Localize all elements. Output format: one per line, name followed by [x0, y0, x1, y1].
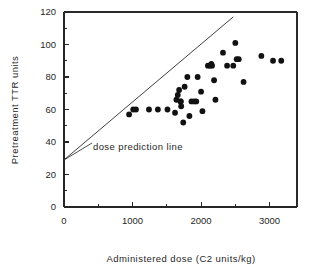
data-point — [258, 53, 264, 59]
data-point — [213, 97, 219, 103]
dose-prediction-line — [64, 17, 233, 160]
y-tick-label: 60 — [45, 104, 56, 115]
data-point — [146, 107, 152, 113]
x-axis-tick-labels: 0100020003000 — [61, 215, 280, 226]
data-point — [193, 98, 199, 104]
data-point — [184, 74, 190, 80]
y-tick-label: 0 — [51, 201, 56, 212]
data-point — [220, 50, 226, 56]
data-point — [180, 120, 186, 126]
data-point — [178, 103, 184, 109]
x-tick-label: 1000 — [122, 215, 143, 226]
scatter-plot-figure: 020406080100120 0100020003000 dose predi… — [0, 0, 316, 274]
data-point — [187, 113, 193, 119]
data-point — [236, 56, 242, 62]
annotation-group: dose prediction line — [64, 141, 183, 160]
y-axis-title: Pretreatment TTR units — [9, 56, 20, 164]
data-point — [126, 111, 132, 117]
data-point — [230, 63, 236, 69]
y-tick-label: 80 — [45, 71, 56, 82]
data-point — [241, 79, 247, 85]
data-point — [165, 107, 171, 113]
data-point — [198, 89, 204, 95]
x-tick-label: 2000 — [190, 215, 211, 226]
x-axis-title: Administered dose (C2 units/kg) — [106, 253, 255, 264]
data-point — [224, 63, 230, 69]
y-tick-label: 20 — [45, 169, 56, 180]
data-point — [278, 58, 284, 64]
data-point — [172, 110, 178, 116]
x-tick-label: 0 — [61, 215, 66, 226]
data-point — [155, 107, 161, 113]
data-point — [176, 87, 182, 93]
data-points — [126, 40, 284, 125]
plot-canvas: 020406080100120 0100020003000 dose predi… — [0, 0, 316, 274]
annotation-leader-line — [64, 143, 92, 160]
x-tick-label: 3000 — [259, 215, 280, 226]
y-tick-label: 120 — [40, 6, 56, 17]
y-tick-label: 100 — [40, 39, 56, 50]
prediction-line-stroke — [64, 17, 233, 160]
data-point — [209, 63, 215, 69]
data-point — [232, 40, 238, 46]
data-point — [270, 58, 276, 64]
data-point — [200, 108, 206, 114]
y-tick-label: 40 — [45, 136, 56, 147]
data-point — [211, 77, 217, 83]
y-axis-tick-labels: 020406080100120 — [40, 6, 56, 212]
data-point — [133, 107, 139, 113]
plot-frame — [64, 12, 297, 207]
data-point — [182, 84, 188, 90]
data-point — [195, 74, 201, 80]
y-axis-major-ticks — [64, 12, 69, 207]
dose-prediction-line-label: dose prediction line — [93, 141, 183, 152]
data-point — [175, 92, 181, 98]
